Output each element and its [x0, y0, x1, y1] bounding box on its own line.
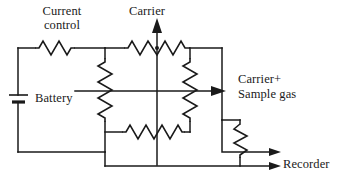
label-carrier-sample-line1: Carrier+ [238, 72, 281, 86]
label-carrier-sample-gas: Carrier+ Sample gas [238, 72, 338, 102]
label-carrier: Carrier [129, 4, 165, 18]
recorder-resistor [234, 124, 247, 158]
carrier-top-junction-node [155, 46, 159, 50]
recorder-arrow-upper-icon [269, 148, 281, 156]
label-carrier-sample-line2: Sample gas [238, 87, 338, 102]
sample-gas-outlet-arrow-icon [211, 86, 226, 96]
circuit-diagram: Current control Carrier Carrier+ Sample … [0, 0, 346, 187]
label-recorder: Recorder [283, 157, 330, 171]
label-current-control: Current control [29, 4, 95, 32]
label-current-control-line1: Current [43, 4, 82, 18]
current-control-resistor [35, 41, 75, 55]
label-battery: Battery [35, 91, 73, 105]
carrier-inlet-arrow-icon [152, 18, 162, 33]
recorder-arrow-lower-icon [269, 162, 281, 170]
bridge-resistor-right [183, 58, 197, 122]
bridge-resistor-left [98, 58, 112, 122]
label-current-control-line2: control [29, 18, 95, 32]
bridge-resistor-bottom [122, 125, 185, 139]
